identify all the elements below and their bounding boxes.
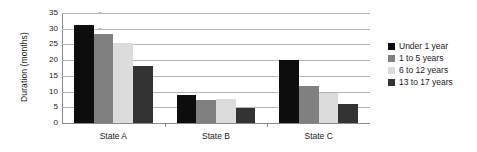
y-axis-tick-label: 35 <box>40 9 58 17</box>
bar-group <box>267 13 370 123</box>
legend-swatch-icon <box>388 55 395 62</box>
y-axis-tick-label: 15 <box>40 72 58 80</box>
legend-label: Under 1 year <box>399 42 448 51</box>
legend-item: 13 to 17 years <box>388 77 453 88</box>
bar <box>319 93 339 123</box>
legend-label: 13 to 17 years <box>399 78 453 87</box>
bar <box>279 60 299 123</box>
bar-group <box>62 13 165 123</box>
y-axis-tick-label: 25 <box>40 40 58 48</box>
x-axis-label: State B <box>165 131 268 141</box>
legend-swatch-icon <box>388 43 395 50</box>
x-axis-label: State C <box>267 131 370 141</box>
x-axis-label: State A <box>62 131 165 141</box>
bar <box>299 86 319 123</box>
bar <box>133 66 153 124</box>
bar <box>177 95 197 123</box>
y-axis-tick-label: 10 <box>40 88 58 96</box>
x-axis-labels: State AState BState C <box>62 131 370 141</box>
y-axis-tick-label: 0 <box>40 119 58 127</box>
legend-label: 1 to 5 years <box>399 54 443 63</box>
y-axis-tick-label: 20 <box>40 56 58 64</box>
bar-set <box>177 13 256 123</box>
y-axis-tick-labels: 05101520253035 <box>40 13 58 123</box>
bar-set <box>279 13 358 123</box>
bar-set <box>74 13 153 123</box>
legend-item: 1 to 5 years <box>388 53 453 64</box>
bar <box>216 99 236 123</box>
legend: Under 1 year1 to 5 years6 to 12 years13 … <box>388 41 453 89</box>
bar-group <box>165 13 268 123</box>
bar <box>113 43 133 123</box>
legend-swatch-icon <box>388 67 395 74</box>
x-axis-group-separator <box>165 123 166 127</box>
y-axis-title: Duration (months) <box>19 12 29 122</box>
plot-area <box>62 13 370 123</box>
gridline <box>62 123 370 124</box>
bar <box>236 108 256 123</box>
y-axis-tick-label: 30 <box>40 25 58 33</box>
legend-swatch-icon <box>388 79 395 86</box>
bar <box>74 25 94 123</box>
legend-label: 6 to 12 years <box>399 66 448 75</box>
bar-chart: Duration (months) 05101520253035 State A… <box>0 0 477 152</box>
bar <box>338 104 358 123</box>
y-axis-tick-label: 5 <box>40 103 58 111</box>
bar <box>196 100 216 123</box>
bar <box>94 34 114 123</box>
legend-item: Under 1 year <box>388 41 453 52</box>
bar-groups <box>62 13 370 123</box>
legend-item: 6 to 12 years <box>388 65 453 76</box>
x-axis-group-separator <box>267 123 268 127</box>
